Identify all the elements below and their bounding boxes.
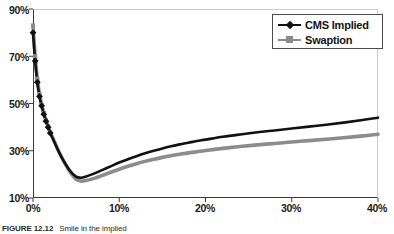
legend-label-swaption: Swaption <box>302 34 352 46</box>
square-marker-icon <box>286 36 293 43</box>
chart-legend: CMS Implied Swaption <box>272 14 383 49</box>
figure-caption-text: Smile in the implied <box>53 224 126 233</box>
legend-key-swaption <box>277 34 302 46</box>
x-tick-label-0: 0% <box>13 202 53 214</box>
figure-caption-label: FIGURE 12.12 <box>2 224 53 233</box>
y-tick-label-90: 90% <box>0 4 29 16</box>
diamond-marker-icon <box>286 20 294 28</box>
x-tick-label-40: 40% <box>357 202 394 214</box>
y-tick-label-30: 30% <box>0 145 29 157</box>
x-tick-label-10: 10% <box>99 202 139 214</box>
y-tick-label-50: 50% <box>0 98 29 110</box>
legend-label-cms-implied: CMS Implied <box>302 19 369 31</box>
x-tick-label-20: 20% <box>185 202 225 214</box>
y-tick-label-70: 70% <box>0 51 29 63</box>
figure-root: 90% 70% 50% 30% 10% 0% 10% 20% 30% 40% C… <box>0 0 394 234</box>
legend-item-cms-implied: CMS Implied <box>277 17 382 32</box>
series-line-cms-implied <box>33 33 378 178</box>
figure-caption: FIGURE 12.12Smile in the implied <box>2 224 392 234</box>
legend-key-cms-implied <box>277 19 302 31</box>
legend-item-swaption: Swaption <box>277 32 382 47</box>
x-tick-label-30: 30% <box>271 202 311 214</box>
